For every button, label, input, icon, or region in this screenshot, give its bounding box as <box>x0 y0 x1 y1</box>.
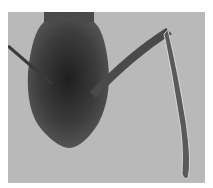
right-antenna-funiculus <box>164 30 190 179</box>
neck <box>44 12 94 22</box>
ant-head-illustration <box>8 12 205 183</box>
head <box>28 22 109 148</box>
specimen-photo <box>8 12 205 183</box>
